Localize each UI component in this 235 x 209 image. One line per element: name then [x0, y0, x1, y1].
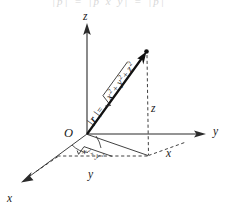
projection-term2-exponent: 2	[100, 151, 105, 158]
magnitude-formula: | r | = x 2 + y 2 + z 2	[84, 60, 138, 128]
z-axis-label: z	[82, 10, 88, 22]
projection-formula: x 2 + y 2	[76, 143, 113, 164]
x-axis-label: x	[6, 192, 13, 204]
x-component-label: x	[165, 147, 172, 159]
x-axis-foot-dashed	[34, 157, 58, 174]
diagram-canvas: z y x O z y x | r | = x 2 + y 2 + z 2	[0, 0, 235, 209]
axis-y	[87, 130, 206, 137]
vector-magnitude-diagram: |p| = |p x y| = |p|	[0, 0, 235, 209]
z-component-label: z	[150, 102, 156, 114]
axis-x	[21, 134, 87, 183]
vector-endpoint-dot	[144, 49, 149, 54]
z-component-dashed-drop	[147, 55, 149, 155]
vector-angle-arc	[96, 136, 101, 148]
y-axis-label: y	[212, 125, 219, 138]
x-axis-arrowhead	[21, 172, 34, 183]
origin-label: O	[64, 126, 73, 140]
y-component-label: y	[87, 168, 94, 181]
